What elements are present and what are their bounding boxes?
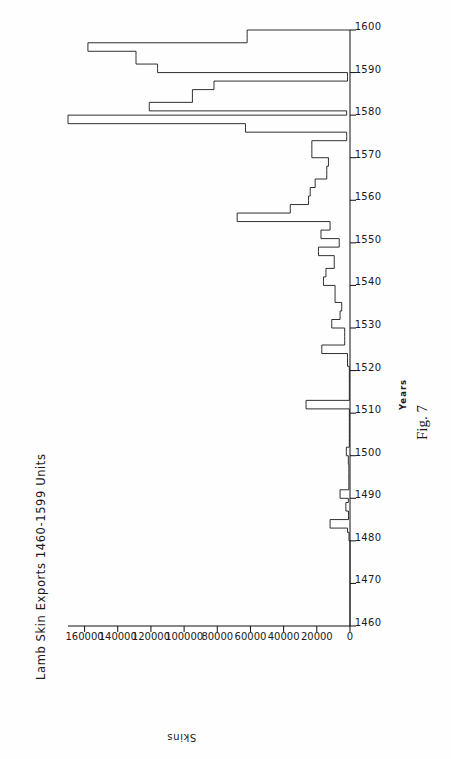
y-tick-label: 120000 xyxy=(131,631,169,642)
axis-frame xyxy=(68,30,350,626)
x-tick-labels: 1460147014801490150015101520153015401550… xyxy=(354,21,381,628)
y-tick-label: 0 xyxy=(346,631,352,642)
x-tick-label: 1560 xyxy=(354,191,381,202)
y-tick-labels: 0200004000060000800001000001200001400001… xyxy=(65,631,353,642)
x-tick-label: 1490 xyxy=(354,489,381,500)
figure-page: Lamb Skin Exports 1460-1599 Units Skins … xyxy=(0,0,451,759)
figure-caption: Fig. 7 xyxy=(414,404,431,439)
x-tick-label: 1540 xyxy=(354,276,381,287)
step-outline-path xyxy=(68,30,350,626)
x-tick-label: 1480 xyxy=(354,531,381,542)
x-tick-label: 1520 xyxy=(354,361,381,372)
x-tick-label: 1500 xyxy=(354,446,381,457)
x-tick-label: 1580 xyxy=(354,106,381,117)
x-tick-label: 1510 xyxy=(354,404,381,415)
x-tick-label: 1590 xyxy=(354,63,381,74)
y-tick-label: 60000 xyxy=(234,631,266,642)
y-axis-label: Skins xyxy=(166,731,195,742)
chart-canvas: 1460147014801490150015101520153015401550… xyxy=(62,18,407,678)
rotated-figure-container: Lamb Skin Exports 1460-1599 Units Skins … xyxy=(26,20,426,740)
y-tick-label: 20000 xyxy=(300,631,332,642)
plot-area: 1460147014801490150015101520153015401550… xyxy=(62,50,362,678)
y-tick-label: 40000 xyxy=(267,631,299,642)
chart-title: Lamb Skin Exports 1460-1599 Units xyxy=(34,453,48,680)
data-series-group xyxy=(68,30,350,626)
y-tick-label: 160000 xyxy=(65,631,103,642)
x-tick-label: 1460 xyxy=(354,617,381,628)
y-tick-label: 80000 xyxy=(201,631,233,642)
x-tick-label: 1530 xyxy=(354,319,381,330)
x-tick-label: 1550 xyxy=(354,233,381,244)
x-tick-label: 1570 xyxy=(354,148,381,159)
x-tick-label: 1600 xyxy=(354,21,381,32)
axes xyxy=(68,30,356,632)
y-tick-label: 100000 xyxy=(165,631,203,642)
x-tick-label: 1470 xyxy=(354,574,381,585)
y-tick-label: 140000 xyxy=(98,631,136,642)
